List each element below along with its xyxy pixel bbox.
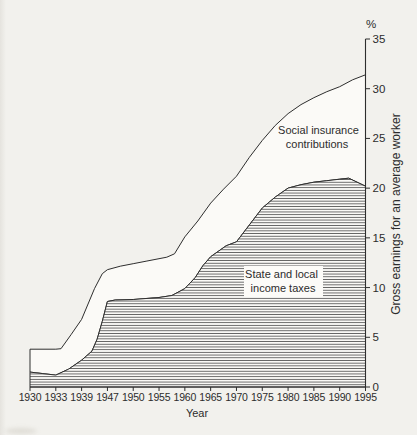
y-tick-label: 35 [373,33,386,45]
y-tick-label: 25 [373,132,386,144]
x-tick-label: 1933 [45,391,68,403]
tax-burden-area-chart: 1930193319391947195019551960196519701975… [0,0,417,435]
y-tick-label: 15 [373,232,386,244]
x-tick-label: 1990 [328,391,351,403]
scanned-textbook-figure: 1930193319391947195019551960196519701975… [0,0,417,435]
scan-artifact [5,428,37,434]
x-tick-label: 1939 [70,391,93,403]
x-axis-tick-labels: 1930193319391947195019551960196519701975… [19,391,377,403]
x-tick-label: 1960 [174,391,197,403]
y-tick-label: 10 [373,282,386,294]
y-axis-title: Gross earnings for an average worker [389,113,403,314]
x-tick-label: 1947 [96,391,119,403]
x-axis-title: Year [186,407,209,419]
y-tick-label: 20 [373,182,386,194]
percent-unit-label: % [366,18,376,30]
x-tick-label: 1985 [303,391,326,403]
y-tick-label: 5 [373,331,379,343]
x-tick-label: 1965 [199,391,222,403]
x-tick-label: 1930 [19,391,42,403]
x-tick-label: 1955 [148,391,171,403]
y-axis-tick-labels: 05101520253035 [373,33,386,393]
x-tick-label: 1970 [225,391,248,403]
y-axis-ticks [366,39,371,387]
y-tick-label: 30 [373,83,386,95]
x-tick-label: 1950 [122,391,145,403]
x-tick-label: 1975 [251,391,274,403]
y-tick-label: 0 [373,381,379,393]
x-tick-label: 1980 [277,391,300,403]
